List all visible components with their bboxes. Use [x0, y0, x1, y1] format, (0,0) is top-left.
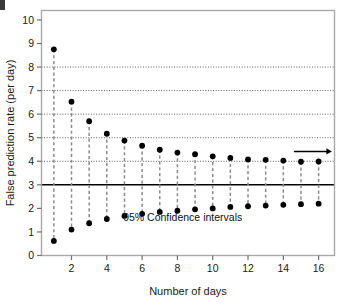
data-point	[298, 201, 304, 207]
data-point	[316, 201, 322, 207]
y-tick-label: 10	[22, 14, 34, 26]
right-arrow-icon	[294, 148, 332, 154]
data-point	[104, 131, 110, 137]
y-tick-label: 1	[28, 226, 34, 238]
false-prediction-rate-chart: 012345678910 246810121416 95% Confidence…	[0, 0, 345, 304]
y-tick-label: 6	[28, 108, 34, 120]
data-point	[157, 147, 163, 153]
y-tick-label: 3	[28, 179, 34, 191]
confidence-interval-annotation: 95% Confidence intervals	[123, 211, 242, 223]
y-tick-label: 5	[28, 131, 34, 143]
data-point	[51, 238, 57, 244]
y-tick-label: 7	[28, 84, 34, 96]
y-tick-label: 8	[28, 61, 34, 73]
data-point	[69, 227, 75, 233]
data-point	[280, 158, 286, 164]
data-point	[51, 46, 57, 52]
data-point	[86, 118, 92, 124]
data-point	[227, 155, 233, 161]
y-tick-label: 9	[28, 37, 34, 49]
y-tick-label: 2	[28, 202, 34, 214]
data-point	[245, 203, 251, 209]
data-point	[263, 203, 269, 209]
data-point	[104, 216, 110, 222]
data-point	[245, 156, 251, 162]
x-axis-title: Number of days	[149, 285, 227, 297]
x-tick-label: 2	[69, 262, 75, 274]
figure-container: 012345678910 246810121416 95% Confidence…	[0, 0, 345, 304]
x-tick-label: 6	[139, 262, 145, 274]
y-axis-title: False prediction rate (per day)	[4, 60, 16, 207]
y-axis-ticks: 012345678910	[22, 14, 41, 262]
x-tick-label: 16	[313, 262, 325, 274]
data-point	[210, 153, 216, 159]
data-point	[175, 150, 181, 156]
data-point	[86, 220, 92, 226]
x-tick-label: 12	[242, 262, 254, 274]
y-tick-label: 4	[28, 155, 34, 167]
y-tick-label: 0	[28, 249, 34, 261]
data-point	[139, 143, 145, 149]
data-point	[192, 151, 198, 157]
data-point	[69, 99, 75, 105]
x-tick-label: 8	[174, 262, 180, 274]
data-point	[122, 138, 128, 144]
data-point	[316, 159, 322, 165]
data-point	[280, 202, 286, 208]
gridlines-group	[42, 67, 335, 161]
x-tick-label: 14	[277, 262, 289, 274]
x-tick-label: 4	[104, 262, 110, 274]
data-point	[298, 159, 304, 165]
x-tick-label: 10	[207, 262, 219, 274]
crop-mark-icon	[0, 0, 5, 10]
data-point	[263, 157, 269, 163]
data-point	[227, 204, 233, 210]
x-axis-ticks: 246810121416	[69, 256, 325, 274]
